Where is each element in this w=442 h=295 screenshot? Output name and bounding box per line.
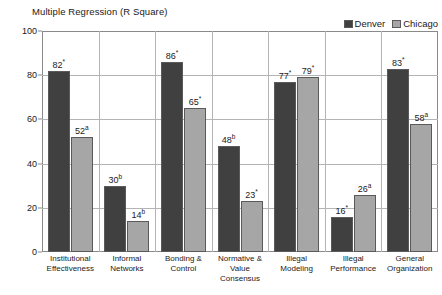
bar-value-label: 14b bbox=[132, 210, 146, 220]
legend-swatch-chicago bbox=[392, 20, 401, 28]
bar-chicago[interactable]: 14b bbox=[127, 221, 149, 252]
chart-legend: Denver Chicago bbox=[344, 18, 438, 29]
bar-denver[interactable]: 82* bbox=[48, 71, 70, 252]
x-axis-labels: InstitutionalEffectivenessInformalNetwor… bbox=[42, 254, 438, 284]
x-axis-label: IllegalModeling bbox=[268, 254, 325, 284]
bar-pair: 82*52a bbox=[42, 31, 99, 252]
plot-area: 020406080100 82*52a30b14b86*65*48b23*77*… bbox=[42, 31, 438, 252]
x-axis-label-line2: Value Consensus bbox=[213, 264, 268, 284]
chart-title: Multiple Regression (R Square) bbox=[32, 6, 168, 17]
legend-label-denver: Denver bbox=[355, 18, 386, 29]
legend-swatch-denver bbox=[344, 20, 353, 28]
bar-value-label: 65* bbox=[189, 97, 202, 107]
bar-chicago[interactable]: 65* bbox=[184, 108, 206, 252]
bar-value-label: 86* bbox=[166, 51, 179, 61]
x-axis-label-line1: Bonding & bbox=[156, 254, 211, 264]
bar-pair: 77*79* bbox=[268, 31, 325, 252]
x-axis-label-line1: Normative & bbox=[213, 254, 268, 264]
bar-groups: 82*52a30b14b86*65*48b23*77*79*16*26a83*5… bbox=[42, 31, 438, 252]
bar-value-label: 16* bbox=[335, 206, 348, 216]
bar-value-label: 58a bbox=[414, 113, 428, 123]
bar-group: 30b14b bbox=[99, 31, 156, 252]
x-axis-label-line1: Informal bbox=[100, 254, 155, 264]
y-axis-tick-label: 20 bbox=[27, 203, 37, 213]
bar-chicago[interactable]: 26a bbox=[354, 195, 376, 252]
bar-pair: 48b23* bbox=[212, 31, 269, 252]
x-axis-label: Normative &Value Consensus bbox=[212, 254, 269, 284]
y-axis-tick-label: 0 bbox=[32, 247, 37, 257]
chart-container: Multiple Regression (R Square) Denver Ch… bbox=[0, 0, 442, 295]
legend-item-chicago: Chicago bbox=[392, 18, 438, 29]
bar-value-label: 79* bbox=[302, 66, 315, 76]
x-axis-label-line1: Illegal bbox=[326, 254, 381, 264]
bar-value-label: 82* bbox=[53, 60, 66, 70]
y-axis-tick-label: 60 bbox=[27, 114, 37, 124]
bar-value-label: 83* bbox=[392, 58, 405, 68]
x-axis-label: GeneralOrganization bbox=[381, 254, 438, 284]
y-axis-tick-label: 100 bbox=[22, 26, 37, 36]
bar-chicago[interactable]: 23* bbox=[241, 201, 263, 252]
x-axis-label-line2: Control bbox=[156, 264, 211, 274]
bar-pair: 16*26a bbox=[325, 31, 382, 252]
bar-pair: 83*58a bbox=[381, 31, 438, 252]
x-axis-label-line2: Modeling bbox=[269, 264, 324, 274]
x-axis-label: InstitutionalEffectiveness bbox=[42, 254, 99, 284]
bar-group: 16*26a bbox=[325, 31, 382, 252]
legend-label-chicago: Chicago bbox=[403, 18, 438, 29]
bar-value-label: 26a bbox=[358, 184, 372, 194]
x-axis-label-line2: Effectiveness bbox=[43, 264, 98, 274]
x-axis-label-line1: Institutional bbox=[43, 254, 98, 264]
bar-denver[interactable]: 77* bbox=[274, 82, 296, 252]
bar-denver[interactable]: 86* bbox=[161, 62, 183, 252]
legend-item-denver: Denver bbox=[344, 18, 386, 29]
bar-group: 48b23* bbox=[212, 31, 269, 252]
bar-group: 83*58a bbox=[381, 31, 438, 252]
bar-value-label: 52a bbox=[75, 126, 89, 136]
bar-chicago[interactable]: 52a bbox=[71, 137, 93, 252]
x-axis-label: Bonding &Control bbox=[155, 254, 212, 284]
x-axis-label-line1: General bbox=[382, 254, 437, 264]
bar-pair: 86*65* bbox=[155, 31, 212, 252]
bar-denver[interactable]: 30b bbox=[104, 186, 126, 252]
bar-chicago[interactable]: 79* bbox=[297, 77, 319, 252]
bar-group: 82*52a bbox=[42, 31, 99, 252]
bar-value-label: 77* bbox=[279, 71, 292, 81]
y-axis-tick-label: 80 bbox=[27, 70, 37, 80]
bar-group: 77*79* bbox=[268, 31, 325, 252]
bar-value-label: 48b bbox=[222, 135, 236, 145]
x-axis-label: IllegalPerformance bbox=[325, 254, 382, 284]
x-axis-label-line2: Performance bbox=[326, 264, 381, 274]
x-axis-label-line2: Organization bbox=[382, 264, 437, 274]
y-axis-tick-label: 40 bbox=[27, 159, 37, 169]
bar-value-label: 23* bbox=[245, 190, 258, 200]
x-axis-label-line1: Illegal bbox=[269, 254, 324, 264]
bar-denver[interactable]: 48b bbox=[218, 146, 240, 252]
bar-chicago[interactable]: 58a bbox=[410, 124, 432, 252]
x-axis-label: InformalNetworks bbox=[99, 254, 156, 284]
bar-pair: 30b14b bbox=[99, 31, 156, 252]
x-axis-label-line2: Networks bbox=[100, 264, 155, 274]
bar-value-label: 30b bbox=[109, 175, 123, 185]
bar-denver[interactable]: 16* bbox=[331, 217, 353, 252]
bar-group: 86*65* bbox=[155, 31, 212, 252]
bar-denver[interactable]: 83* bbox=[387, 69, 409, 252]
